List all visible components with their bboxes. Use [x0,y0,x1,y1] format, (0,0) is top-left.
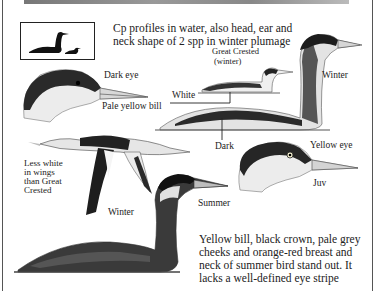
description-line-3: neck of summer bird stand out. It [199,259,360,272]
description-text: Yellow bill, black crown, pale grey chee… [199,233,360,285]
label-less-white: Less white in wings than Great Crested [24,159,63,195]
label-yellow-eye: Yellow eye [310,140,353,151]
label-juv: Juv [313,178,326,189]
description-line-1: Yellow bill, black crown, pale grey [199,233,360,246]
label-summer: Summer [198,198,230,209]
description-line-2: cheeks and orange-red breast and [199,246,360,259]
label-dark: Dark [215,141,234,152]
label-dark-eye: Dark eye [104,70,139,81]
label-winter-flight: Winter [108,207,134,218]
label-white: White [172,90,195,101]
label-winter-swimming: Winter [322,70,348,81]
label-pale-yellow-bill: Pale yellow bill [102,101,162,112]
less-white-line-4: Crested [24,186,63,195]
label-great-crested-winter: (winter) [214,57,241,67]
field-guide-page: Cp profiles in water, also head, ear and… [0,0,380,291]
description-line-4: lacks a well-defined eye stripe [199,272,360,285]
